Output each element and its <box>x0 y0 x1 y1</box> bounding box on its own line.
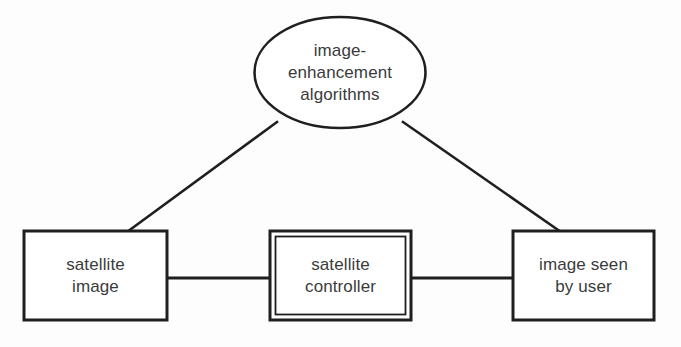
box-satellite-image <box>24 231 167 320</box>
connector-ellipse-to-image-seen-by-user <box>403 122 561 232</box>
connector-ellipse-to-satellite-image <box>127 122 277 232</box>
ellipse-image-enhancement-algorithms <box>255 17 426 128</box>
box-satellite-controller-inner <box>276 237 406 315</box>
box-image-seen-by-user <box>513 231 654 320</box>
diagram-graphics <box>0 0 681 347</box>
diagram-canvas: image- enhancement algorithms satellite … <box>0 0 681 347</box>
